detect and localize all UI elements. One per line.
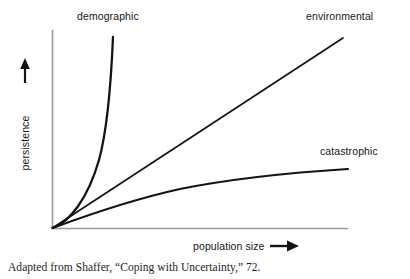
curve-environmental <box>53 38 344 228</box>
figure-container: demographic environmental catastrophic p… <box>0 0 410 279</box>
x-axis-label-group: population size <box>193 239 300 253</box>
curve-label-catastrophic: catastrophic <box>320 145 378 157</box>
y-axis-label-group: persistence <box>11 57 39 217</box>
figure-caption: Adapted from Shaffer, “Coping with Uncer… <box>8 261 261 273</box>
x-axis-label: population size <box>193 240 265 252</box>
arrow-up-icon <box>11 57 39 83</box>
plot-area <box>0 0 410 279</box>
curve-label-demographic: demographic <box>77 10 139 22</box>
curve-demographic <box>53 37 114 228</box>
y-axis-label: persistence <box>19 83 31 203</box>
arrow-right-icon <box>270 239 300 253</box>
curve-label-environmental: environmental <box>306 10 373 22</box>
